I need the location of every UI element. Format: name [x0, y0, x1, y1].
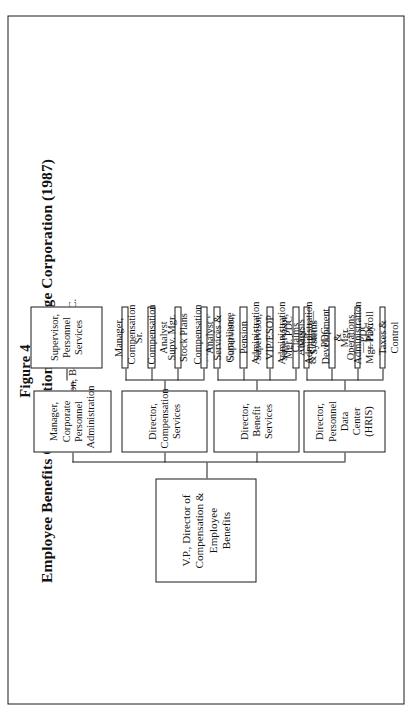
node-corp-1: Supervisor, PersonnelServices [30, 306, 102, 368]
connector-stub-comp-2 [151, 368, 152, 380]
connector-to-pdc [344, 452, 345, 462]
node-benefit: Director, BenefitServices [213, 390, 299, 452]
connector-to-corp [72, 452, 73, 462]
connector-root-stem [206, 462, 207, 478]
node-pdc-4-label: Mgr. Payroll Taxes &Control [363, 310, 400, 364]
connector-to-comp [164, 452, 165, 462]
connector-pdc-to-children [344, 380, 345, 390]
connector-corp-to-children [72, 380, 73, 390]
node-comp-2: Sr. Compensation Analyst [147, 306, 154, 368]
org-chart: V.P., Director ofCompensation & Employee… [7, 15, 404, 704]
node-corp-1-label: Supervisor, PersonnelServices [48, 310, 85, 364]
connector-benefit-to-children [256, 380, 257, 390]
node-benefit-label: Director, BenefitServices [238, 394, 275, 448]
node-vp: V.P., Director ofCompensation & Employee… [155, 478, 256, 582]
connector-stub-pdc-3 [357, 368, 358, 380]
node-corp-label: Manager, CorporatePersonnel Administrati… [47, 394, 96, 448]
rotated-figure-canvas: Figure 4 Employee Benefits Organization … [0, 0, 411, 715]
node-comp-3-label: Supv. Mgr. Stock Plans [165, 310, 190, 364]
connector-stub-ben-3 [269, 368, 270, 380]
node-ben-3: Supervisor,VIP/ESOP Administration [266, 306, 273, 368]
connector-stub-pdc-2 [331, 368, 332, 380]
connector-stub-ben-4 [295, 368, 296, 380]
connector-stub-ben-1 [217, 368, 218, 380]
node-pdc-label: Director, Personnel DataCenter (HRIS) [313, 394, 374, 448]
connector-stub-pdc-4 [382, 368, 383, 380]
figure-page: Figure 4 Employee Benefits Organization … [0, 0, 411, 715]
connector-stub-corp-1 [66, 368, 67, 380]
node-vp-label: V.P., Director ofCompensation & Employee… [179, 482, 232, 578]
node-comp: Director, CompensationServices [121, 390, 207, 452]
connector-stub-pdc-1 [306, 368, 307, 380]
node-comp-4: Compensation Analyst [200, 306, 207, 368]
node-ben-4-label: Supervisor, ClaimsAdministration [277, 310, 314, 364]
connector-stub-comp-4 [203, 368, 204, 380]
connector-level2-spine [72, 461, 344, 462]
node-pdc-2: Mgr. Systems Development& Operations—PDC [328, 306, 334, 368]
node-comp-2-label: Sr. Compensation Analyst [132, 310, 169, 364]
node-ben-2: Supervisor,Pension Administration [239, 306, 246, 368]
node-pdc-3: Mgr.Administration—PDC [354, 306, 360, 368]
connector-stub-comp-3 [177, 368, 178, 380]
node-comp-1: Manager, Compensation [121, 306, 128, 368]
node-comp-4-label: Compensation Analyst [191, 310, 216, 364]
connector-stub-ben-2 [243, 368, 244, 380]
node-pdc: Director, Personnel DataCenter (HRIS) [303, 390, 385, 452]
node-comp-label: Director, CompensationServices [146, 394, 183, 448]
node-pdc-4: Mgr. Payroll Taxes &Control [379, 306, 385, 368]
connector-stub-comp-1 [125, 368, 126, 380]
connector-to-benefit [256, 452, 257, 462]
node-ben-4: Supervisor, ClaimsAdministration [292, 306, 299, 368]
node-comp-3: Supv. Mgr. Stock Plans [174, 306, 181, 368]
node-corp: Manager, CorporatePersonnel Administrati… [33, 390, 111, 452]
